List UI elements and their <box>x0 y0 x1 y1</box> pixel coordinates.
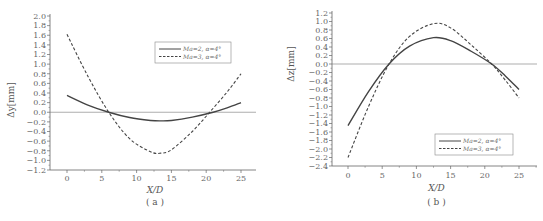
x-tick-label: 0 <box>64 174 69 183</box>
y-tick-label: −2.4 <box>309 162 328 171</box>
legend: Ma=2, α=4°Ma=3, α=4° <box>435 134 513 155</box>
y-tick-label: 0.4 <box>33 89 46 98</box>
y-axis-title: Δz[mm] <box>286 46 296 81</box>
x-tick-label: 5 <box>380 171 385 180</box>
y-tick-label: 1.2 <box>33 50 46 59</box>
y-axis-title: Δy[mm] <box>6 82 16 118</box>
y-tick-label: 1.0 <box>33 60 46 69</box>
y-tick-label: −1.0 <box>27 156 46 165</box>
legend-label: Ma=3, α=4° <box>462 145 501 152</box>
series-ma2-line <box>67 95 241 121</box>
x-tick-label: 5 <box>99 174 104 183</box>
x-axis-title: X/D <box>146 185 164 195</box>
y-tick-label: 0.6 <box>33 79 46 88</box>
y-tick-label: 0.8 <box>33 70 46 79</box>
x-axis-title: X/D <box>427 183 445 193</box>
figure: 2.01.81.61.41.21.00.80.60.40.20.0−0.2−0.… <box>0 0 543 221</box>
x-tick-label: 25 <box>236 174 246 183</box>
y-tick-label: 2.0 <box>33 12 46 21</box>
legend-label: Ma=2, α=4° <box>182 45 221 52</box>
y-tick-label: 0.2 <box>33 98 46 107</box>
x-tick-label: 15 <box>166 174 176 183</box>
panel-label: ( b ) <box>427 197 446 207</box>
y-tick-label: −0.2 <box>27 118 46 127</box>
y-tick-label: −0.4 <box>27 127 46 136</box>
legend-label: Ma=3, α=4° <box>182 53 221 60</box>
x-tick-label: 0 <box>345 171 350 180</box>
x-tick-label: 20 <box>480 171 490 180</box>
chart-panel-a: 2.01.81.61.41.21.00.80.60.40.20.0−0.2−0.… <box>6 12 256 207</box>
y-tick-label: 0.0 <box>33 108 46 117</box>
y-tick-label: 1.6 <box>33 31 46 40</box>
legend: Ma=2, α=4°Ma=3, α=4° <box>155 42 231 63</box>
legend-label: Ma=2, α=4° <box>462 137 501 144</box>
x-tick-label: 10 <box>411 171 421 180</box>
x-tick-label: 20 <box>201 174 211 183</box>
y-tick-label: −1.2 <box>27 166 46 175</box>
x-tick-label: 15 <box>446 171 456 180</box>
y-tick-label: 1.8 <box>33 21 46 30</box>
y-tick-label: −0.8 <box>27 147 46 156</box>
x-tick-label: 10 <box>132 174 142 183</box>
panel-label: ( a ) <box>146 197 164 207</box>
chart-panel-b: 1.21.00.80.60.40.20.0−0.2−0.4−0.6−0.8−1.… <box>286 9 537 207</box>
series-ma2-line <box>348 37 519 125</box>
y-tick-label: −0.6 <box>27 137 46 146</box>
x-tick-label: 25 <box>514 171 524 180</box>
y-tick-label: 1.4 <box>33 41 46 50</box>
